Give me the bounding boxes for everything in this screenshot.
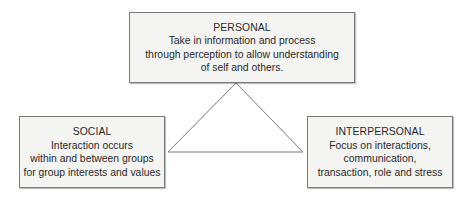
social-box: SOCIAL Interaction occurs within and bet… [19,116,165,188]
social-desc-line-3: for group interests and values [24,166,161,180]
personal-desc-line-2: through perception to allow understandin… [145,48,339,62]
interpersonal-desc-line-3: transaction, role and stress [318,166,443,180]
social-title: SOCIAL [73,125,112,139]
personal-title: PERSONAL [213,21,270,35]
interpersonal-title: INTERPERSONAL [335,125,424,139]
interpersonal-desc-line-2: communication, [344,152,417,166]
interpersonal-desc-line-1: Focus on interactions, [329,139,431,153]
personal-box: PERSONAL Take in information and process… [129,12,355,83]
social-desc-line-2: within and between groups [30,152,154,166]
triangle-shape [168,83,303,152]
interpersonal-box: INTERPERSONAL Focus on interactions, com… [307,116,453,188]
personal-desc-line-3: of self and others. [201,61,284,75]
social-desc-line-1: Interaction occurs [51,139,133,153]
personal-desc-line-1: Take in information and process [169,34,316,48]
